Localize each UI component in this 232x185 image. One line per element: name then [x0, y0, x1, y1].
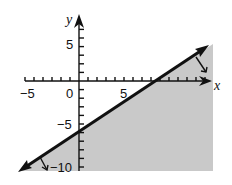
x-axis-label: x [213, 78, 221, 93]
y-tick-label-neg5: −5 [57, 117, 72, 132]
x-tick-label-0: 0 [66, 86, 73, 101]
y-tick-label-neg10: −10 [50, 160, 72, 175]
inequality-graph: x y −5 0 5 5 −5 −10 [0, 0, 232, 185]
x-tick-label-neg5: −5 [20, 86, 35, 101]
y-tick-label-5: 5 [66, 37, 73, 52]
x-tick-label-5: 5 [120, 86, 127, 101]
y-axis-label: y [64, 12, 73, 27]
